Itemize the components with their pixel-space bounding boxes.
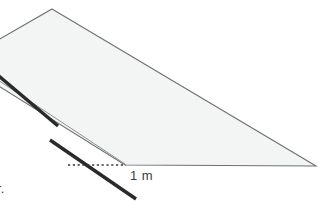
inclined-plane-diagram [0, 0, 324, 201]
length-label: 1 m [130, 168, 153, 183]
figure-canvas: 1 m r. [0, 0, 324, 201]
clipped-caption-text: r. [0, 181, 5, 196]
inclined-plane-surface [0, 9, 316, 166]
